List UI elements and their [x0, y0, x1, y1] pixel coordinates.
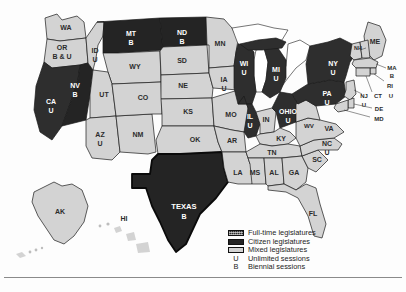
- state-OR: [44, 38, 88, 68]
- legend-label-biennial: Biennial sessions: [248, 263, 305, 272]
- state-AZ: [86, 116, 120, 160]
- us-map-svg: WA OR B & U CA U NV B ID U MT B WY UT AZ…: [0, 0, 406, 292]
- state-WY: [103, 51, 161, 84]
- hawaii-island-1: [99, 225, 102, 228]
- state-NE: [161, 73, 213, 99]
- state-MT: [97, 18, 163, 53]
- mixed-swatch: [228, 247, 244, 253]
- state-RI: [370, 68, 376, 74]
- map-legend: Full-time legislatures Citizen legislatu…: [228, 229, 316, 272]
- state-AL: [264, 158, 284, 186]
- state-CO: [112, 82, 162, 116]
- legend-key-b: B: [228, 263, 244, 272]
- aleutian-dot-2: [35, 249, 38, 252]
- state-NM: [116, 114, 156, 154]
- legend-row-biennial: B Biennial sessions: [228, 263, 316, 272]
- state-NH: [360, 40, 370, 58]
- citizen-swatch: [228, 239, 244, 245]
- hawaii-island-2: [106, 222, 109, 225]
- bottom-divider: [4, 277, 402, 278]
- state-DE: [348, 98, 354, 108]
- state-OK: [156, 126, 222, 154]
- legislature-map-figure: WA OR B & U CA U NV B ID U MT B WY UT AZ…: [0, 0, 406, 292]
- aleutian-dot-3: [41, 247, 43, 249]
- state-SD: [160, 45, 209, 75]
- state-WI: [234, 44, 256, 104]
- state-KS: [161, 98, 214, 126]
- full-time-swatch: [228, 230, 244, 236]
- aleutian-dot-1: [29, 251, 32, 254]
- state-CT: [356, 68, 370, 76]
